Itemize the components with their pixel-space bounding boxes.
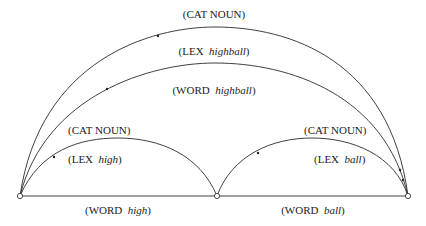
label-outer-cat: (CAT NOUN) [183,8,246,21]
arc-cat-noun-ball [217,138,408,196]
label-left-cat: (CAT NOUN) [68,124,131,137]
node-middle [214,193,219,198]
arrow-mark-icon [402,179,404,181]
arc-cat-noun-high [20,138,217,196]
arrow-mark-icon [53,156,55,158]
node-end [405,193,410,198]
parse-chart-diagram: (CAT NOUN) (LEX highball) (WORD highball… [0,0,426,226]
label-left-lex: (LEX high) [68,153,122,166]
arrow-mark-icon [399,169,401,171]
label-outer-word: (WORD highball) [172,84,255,97]
arrow-mark-icon [257,152,259,154]
arrow-mark-icon [157,35,159,37]
label-right-lex: (LEX ball) [314,153,366,166]
label-right-cat: (CAT NOUN) [304,124,367,137]
node-start [17,193,22,198]
label-left-word: (WORD high) [85,204,151,217]
label-right-word: (WORD ball) [281,204,345,217]
arrow-mark-icon [106,88,108,90]
label-outer-lex: (LEX highball) [179,45,250,58]
